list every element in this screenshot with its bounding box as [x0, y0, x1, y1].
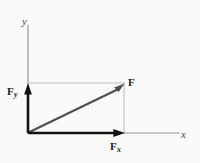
vector-label-Fy-subscript: y — [14, 90, 18, 99]
x-axis-label: x — [181, 129, 186, 140]
vector-label-F-symbol: F — [128, 76, 135, 88]
vector-label-Fx-subscript: x — [117, 145, 121, 154]
vector-label-Fx: Fx — [110, 141, 121, 154]
vector-resultant-F — [29, 84, 125, 133]
y-axis-label: y — [22, 16, 27, 27]
vector-component-Fx — [28, 129, 125, 137]
vector-label-F: F — [128, 77, 135, 88]
vector-component-Fy — [24, 83, 32, 133]
vector-label-Fy: Fy — [7, 86, 18, 99]
diagram-canvas — [0, 0, 200, 163]
vector-label-Fy-symbol: F — [7, 85, 14, 97]
vector-label-Fx-symbol: F — [110, 140, 117, 152]
vector-diagram: y x Fy F Fx — [0, 0, 200, 163]
